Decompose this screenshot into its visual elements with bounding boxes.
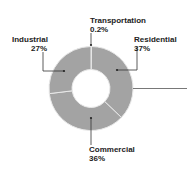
label-transportation: Transportation 0.2% [90,16,146,34]
label-industrial: Industrial 27% [12,35,47,53]
label-industrial-name: Industrial [12,35,47,44]
label-transportation-name: Transportation [90,16,146,25]
label-industrial-value: 27% [12,44,47,53]
slice-industrial [49,47,91,94]
label-transportation-value: 0.2% [90,25,146,34]
label-residential: Residential 37% [134,35,177,53]
label-residential-value: 37% [134,44,177,53]
label-residential-name: Residential [134,35,177,44]
label-commercial: Commercial 36% [89,145,135,163]
label-commercial-name: Commercial [89,145,135,154]
label-commercial-value: 36% [89,154,135,163]
